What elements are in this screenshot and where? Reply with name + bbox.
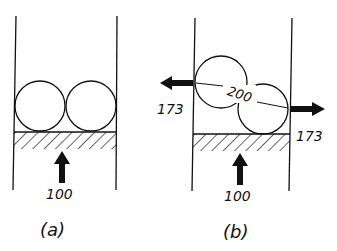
- bottom-force-label: 100: [46, 186, 73, 202]
- panel-a: 100 (a): [13, 16, 117, 240]
- diagram-canvas: 100 (a) 200 173 173 100 (b): [0, 0, 337, 251]
- arrow-up-icon: [232, 153, 248, 185]
- bottom-force-label: 100: [224, 188, 251, 204]
- floor-hatch: [14, 132, 116, 149]
- caption-b: (b): [223, 221, 248, 242]
- panel-b: 200 173 173 100 (b): [157, 18, 325, 242]
- left-force-label: 173: [157, 101, 184, 117]
- right-wall: [289, 18, 292, 191]
- left-wall: [192, 18, 195, 191]
- arrow-up-icon: [54, 151, 70, 183]
- caption-a: (a): [40, 219, 65, 240]
- contact-leader-left: [196, 83, 223, 86]
- ball-right: [66, 81, 116, 131]
- ball-left: [15, 81, 65, 131]
- arrow-left-icon: [160, 76, 193, 90]
- arrow-right-icon: [291, 102, 325, 116]
- floor-hatch: [193, 134, 290, 151]
- right-force-label: 173: [296, 128, 323, 144]
- contact-leader-right: [257, 102, 288, 108]
